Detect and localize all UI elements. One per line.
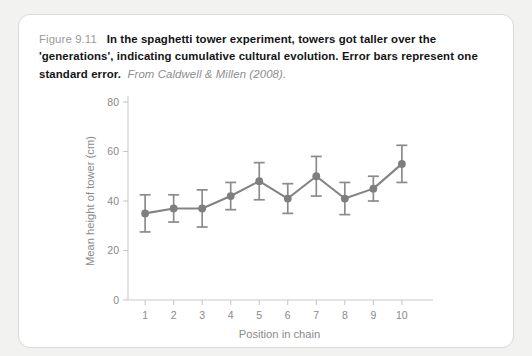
page-watermark — [485, 277, 511, 321]
x-tick-label: 6 — [285, 309, 291, 321]
x-tick-label: 5 — [256, 309, 262, 321]
y-tick-label: 80 — [107, 96, 119, 108]
y-axis-title: Mean height of tower (cm) — [84, 136, 96, 266]
data-point — [141, 209, 149, 217]
data-point — [398, 160, 406, 168]
x-tick-label: 1 — [142, 309, 148, 321]
data-point — [312, 172, 320, 180]
y-tick-label: 60 — [107, 145, 119, 157]
figure-card: Figure 9.11 In the spaghetti tower exper… — [18, 14, 514, 348]
line-chart: 02040608012345678910Position in chainMea… — [19, 15, 515, 349]
screenshot-root: Figure 9.11 In the spaghetti tower exper… — [0, 0, 532, 356]
series-line — [145, 164, 402, 214]
data-point — [284, 195, 292, 203]
y-tick-label: 0 — [113, 294, 119, 306]
x-tick-label: 2 — [171, 309, 177, 321]
data-point — [227, 192, 235, 200]
x-tick-label: 4 — [228, 309, 234, 321]
data-point — [255, 177, 263, 185]
data-point — [341, 195, 349, 203]
y-tick-label: 20 — [107, 244, 119, 256]
data-point — [198, 205, 206, 213]
x-tick-label: 7 — [313, 309, 319, 321]
x-tick-label: 8 — [342, 309, 348, 321]
data-point — [369, 185, 377, 193]
chart-area: 02040608012345678910Position in chainMea… — [19, 15, 515, 349]
x-tick-label: 10 — [396, 309, 408, 321]
y-tick-label: 40 — [107, 195, 119, 207]
x-tick-label: 9 — [370, 309, 376, 321]
x-tick-label: 3 — [199, 309, 205, 321]
x-axis-title: Position in chain — [239, 328, 320, 340]
data-point — [170, 205, 178, 213]
